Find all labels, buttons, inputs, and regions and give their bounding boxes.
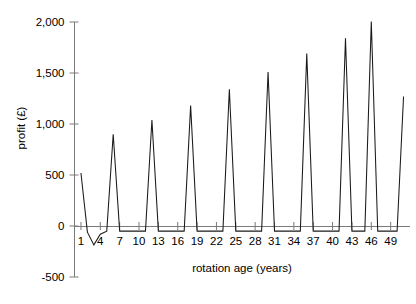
profit-vs-rotation-age-chart: 2,0001,5001,0005000-500 1471013161922252… [0,0,416,304]
x-tick-label: 43 [346,235,359,247]
x-axis-title: rotation age (years) [192,262,292,274]
profit-line-series [81,21,404,244]
x-tick-label: 10 [133,235,146,247]
x-axis-tick-labels: 1471013161922252831343740434649 [78,235,397,247]
y-tick-label: 1,500 [36,67,65,79]
y-tick-label: 1,000 [36,118,65,130]
data-series-group [81,21,404,244]
chart-container: 2,0001,5001,0005000-500 1471013161922252… [0,0,416,304]
x-tick-label: 25 [229,235,242,247]
x-axis: 1471013161922252831343740434649 [75,222,411,247]
y-tick-label: -500 [41,271,64,283]
x-tick-label: 16 [171,235,184,247]
y-axis-title: profit (£) [15,106,27,149]
y-tick-label: 2,000 [36,16,65,28]
x-tick-label: 34 [287,235,300,247]
x-tick-label: 28 [249,235,262,247]
x-tick-label: 31 [268,235,281,247]
x-tick-label: 46 [365,235,378,247]
y-axis-tick-labels: 2,0001,5001,0005000-500 [36,16,65,283]
y-tick-label: 0 [58,220,64,232]
x-tick-label: 37 [307,235,320,247]
y-tick-label: 500 [45,169,64,181]
x-tick-label: 22 [210,235,223,247]
x-tick-label: 49 [384,235,397,247]
y-axis: 2,0001,5001,0005000-500 [36,16,79,283]
x-tick-label: 19 [191,235,204,247]
x-tick-label: 13 [152,235,165,247]
x-tick-label: 7 [116,235,122,247]
x-tick-label: 40 [326,235,339,247]
x-tick-label: 1 [78,235,84,247]
